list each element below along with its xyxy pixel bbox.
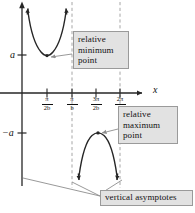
x-tick-label-2-numerator: π (59, 96, 85, 103)
x-tick-label-1-denominator: 2b (34, 105, 60, 112)
callout-relative-maximum: relative maximum point (118, 106, 178, 144)
y-axis-label-negative-a: −a (2, 127, 14, 138)
x-tick-label-4-numerator: 2π (107, 96, 133, 103)
callout-relative-minimum-line3: point (78, 55, 125, 66)
callout-relative-minimum-line2: minimum (78, 45, 125, 56)
x-tick-label-3-denominator: 2b (83, 105, 109, 112)
curve-lower-branch (78, 131, 117, 180)
leader-line-maximum (102, 129, 118, 133)
callout-relative-minimum-line1: relative (78, 34, 125, 45)
y-axis-label-a: a (10, 49, 15, 60)
callout-relative-maximum-line1: relative (123, 109, 174, 120)
leader-line-asymptote-1 (72, 182, 100, 196)
x-tick-label-1: π 2b (34, 96, 60, 112)
x-tick-label-3-numerator: 3π (83, 96, 109, 103)
leader-line-minimum (51, 54, 72, 57)
callout-relative-maximum-line2: maximum (123, 120, 174, 131)
callout-vertical-asymptotes-line1: vertical asymptotes (105, 192, 189, 203)
callout-relative-minimum: relative minimum point (73, 31, 129, 69)
curve-upper-branch (27, 9, 66, 58)
y-axis (19, 2, 25, 187)
x-tick-label-2-denominator: b (59, 105, 85, 112)
x-tick-label-3: 3π 2b (83, 96, 109, 112)
x-tick-label-1-numerator: π (34, 96, 60, 103)
x-axis-label: x (153, 84, 157, 95)
graph-figure: a −a x π 2b π b 3π 2b 2π b relative mini… (0, 0, 195, 213)
x-tick-label-2: π b (59, 96, 85, 112)
callout-relative-maximum-line3: point (123, 130, 174, 141)
callout-vertical-asymptotes: vertical asymptotes (100, 190, 193, 206)
leader-line-asymptote-y-axis (23, 178, 100, 196)
